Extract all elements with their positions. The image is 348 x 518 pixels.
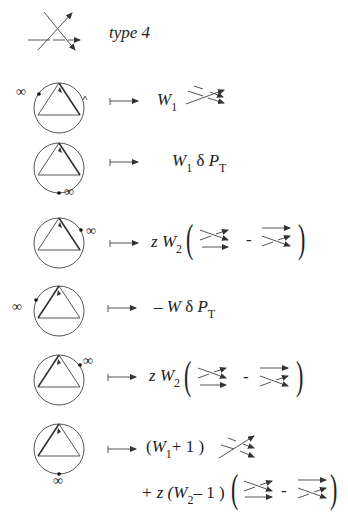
type-4-text: type 4 bbox=[109, 23, 150, 42]
infinity-marker-4: ∞ bbox=[12, 299, 22, 315]
row5-formula: z W2 bbox=[149, 366, 180, 386]
row6-minus: - bbox=[281, 481, 287, 501]
crossing-glyph-3b bbox=[262, 228, 290, 246]
row3-close-paren: ) bbox=[298, 219, 305, 259]
crossing-glyph-6c bbox=[298, 480, 326, 498]
gauss-diagram-3 bbox=[34, 218, 84, 268]
w-subscript: 1 bbox=[166, 447, 172, 461]
row2-formula: W1 δ PT bbox=[172, 151, 226, 171]
maps-to-arrow-6 bbox=[108, 446, 136, 453]
w-symbol: W bbox=[162, 232, 176, 251]
maps-to-arrow-5 bbox=[108, 374, 136, 381]
z-symbol: z bbox=[149, 366, 156, 385]
gauss-diagram-5 bbox=[34, 355, 84, 405]
w-subscript: 1 bbox=[186, 161, 192, 175]
crossing-glyph-3a bbox=[200, 230, 228, 247]
minus-one-close: – 1 ) bbox=[193, 483, 224, 502]
w-symbol: W bbox=[172, 151, 186, 170]
row6-open-paren: ( bbox=[231, 469, 238, 509]
type4-crossing-diagram bbox=[28, 12, 80, 50]
type-4-label: type 4 bbox=[109, 23, 150, 43]
infinity-marker-5: ∞ bbox=[83, 353, 93, 369]
row4-formula: – W δ PT bbox=[154, 297, 215, 317]
w-subscript: 2 bbox=[187, 493, 193, 507]
crossing-glyph-5b bbox=[260, 368, 288, 386]
row6-line2: + z (W2– 1 ) bbox=[141, 483, 225, 503]
w-symbol: W bbox=[157, 90, 171, 109]
maps-to-arrow-2 bbox=[110, 159, 138, 166]
p-subscript: T bbox=[219, 161, 226, 175]
row1-formula: W1 bbox=[157, 90, 177, 110]
p-symbol: P bbox=[197, 297, 207, 316]
plus-z-open: + z ( bbox=[141, 483, 173, 502]
maps-to-arrow-4 bbox=[108, 305, 136, 312]
delta-symbol: δ bbox=[185, 297, 193, 316]
row3-formula: z W2 bbox=[151, 232, 182, 252]
row3-minus: - bbox=[246, 230, 252, 250]
row5-open-paren: ( bbox=[184, 356, 191, 396]
infinity-marker-6: ∞ bbox=[53, 473, 63, 489]
infinity-marker-3: ∞ bbox=[86, 223, 96, 239]
p-symbol: P bbox=[209, 151, 219, 170]
row6-close-paren: ) bbox=[330, 469, 337, 509]
w-symbol: W bbox=[173, 483, 187, 502]
maps-to-arrow-1 bbox=[110, 98, 138, 105]
maps-to-arrow-3 bbox=[110, 240, 138, 247]
gauss-diagram-2 bbox=[34, 143, 84, 195]
p-subscript: T bbox=[208, 307, 215, 321]
row5-minus: - bbox=[243, 367, 249, 387]
w-subscript: 2 bbox=[176, 242, 182, 256]
gauss-diagram-6 bbox=[34, 424, 84, 476]
row3-open-paren: ( bbox=[186, 219, 193, 259]
infinity-marker-1: ∞ bbox=[16, 84, 26, 100]
minus-w-symbol: – W bbox=[154, 297, 181, 316]
w-subscript: 2 bbox=[174, 376, 180, 390]
w-symbol: W bbox=[152, 437, 166, 456]
row6-line1: (W1+ 1 ) bbox=[146, 437, 204, 457]
z-symbol: z bbox=[151, 232, 158, 251]
crossing-glyph-5a bbox=[198, 368, 226, 385]
crossing-glyph-1 bbox=[186, 86, 224, 104]
infinity-marker-2: ∞ bbox=[64, 184, 74, 200]
crossing-glyph-6a bbox=[219, 436, 254, 458]
delta-symbol: δ bbox=[196, 151, 204, 170]
crossing-glyph-6b bbox=[244, 481, 272, 497]
w-subscript: 1 bbox=[171, 100, 177, 114]
gauss-diagram-4 bbox=[34, 286, 84, 336]
gauss-diagram-1 bbox=[34, 83, 87, 133]
plus-one-close: + 1 ) bbox=[172, 437, 204, 456]
w-symbol: W bbox=[160, 366, 174, 385]
row5-close-paren: ) bbox=[296, 356, 303, 396]
